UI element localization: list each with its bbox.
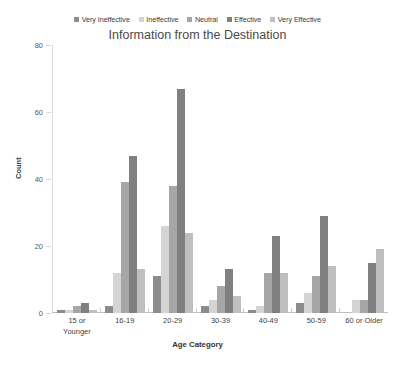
bar[interactable] <box>360 300 368 313</box>
bar[interactable] <box>233 296 241 313</box>
legend-swatch-icon <box>270 17 275 22</box>
bar[interactable] <box>225 269 233 313</box>
legend-label: Ineffective <box>146 15 178 24</box>
x-axis-labels: 15 orYounger16-1920-2930-3940-4950-5960 … <box>53 316 388 337</box>
bar[interactable] <box>272 236 280 313</box>
bar-group <box>197 45 245 313</box>
legend-label: Very Ineffective <box>82 15 130 24</box>
y-tick-mark <box>46 179 51 180</box>
y-tick-label: 20 <box>35 242 43 251</box>
bar[interactable] <box>89 310 97 313</box>
bar[interactable] <box>328 266 336 313</box>
bar[interactable] <box>376 249 384 313</box>
legend-swatch-icon <box>139 17 144 22</box>
bar[interactable] <box>153 276 161 313</box>
legend-swatch-icon <box>227 17 232 22</box>
x-tick-label: 20-29 <box>149 316 197 337</box>
y-tick-label: 80 <box>35 41 43 50</box>
x-tick-label: 60 or Older <box>340 316 388 337</box>
x-tick-label: 30-39 <box>197 316 245 337</box>
bar[interactable] <box>161 226 169 313</box>
y-axis-title: Count <box>14 157 23 179</box>
legend-label: Neutral <box>195 15 218 24</box>
bar-group <box>101 45 149 313</box>
bar[interactable] <box>280 273 288 313</box>
y-tick-mark <box>46 246 51 247</box>
chart-title: Information from the Destination <box>0 28 395 42</box>
legend-entry-ineffective[interactable]: Ineffective <box>139 15 179 24</box>
bar[interactable] <box>121 182 129 313</box>
legend-entry-effective[interactable]: Effective <box>227 15 261 24</box>
y-tick-mark <box>46 313 51 314</box>
y-tick-label: 40 <box>35 175 43 184</box>
bar[interactable] <box>256 306 264 313</box>
legend-entry-very-effective[interactable]: Very Effective <box>270 15 321 24</box>
bar[interactable] <box>185 233 193 313</box>
bar[interactable] <box>81 303 89 313</box>
bar[interactable] <box>129 156 137 313</box>
bar[interactable] <box>105 306 113 313</box>
x-tick-label: 15 orYounger <box>53 316 101 337</box>
bar[interactable] <box>320 216 328 313</box>
bar-group <box>292 45 340 313</box>
chart-legend: Very IneffectiveIneffectiveNeutralEffect… <box>0 15 395 24</box>
legend-entry-very-ineffective[interactable]: Very Ineffective <box>74 15 130 24</box>
bar[interactable] <box>296 303 304 313</box>
x-tick-label: 40-49 <box>244 316 292 337</box>
x-tick-label: 50-59 <box>292 316 340 337</box>
bar[interactable] <box>352 300 360 313</box>
bar-chart: Very IneffectiveIneffectiveNeutralEffect… <box>0 0 395 367</box>
legend-swatch-icon <box>74 17 79 22</box>
bar[interactable] <box>169 186 177 313</box>
bar-groups <box>53 45 388 313</box>
bar-group <box>340 45 388 313</box>
bar-group <box>53 45 101 313</box>
bar[interactable] <box>65 310 73 313</box>
bar[interactable] <box>368 263 376 313</box>
bar[interactable] <box>264 273 272 313</box>
bar[interactable] <box>312 276 320 313</box>
legend-label: Very Effective <box>278 15 321 24</box>
bar-group <box>149 45 197 313</box>
legend-label: Effective <box>234 15 261 24</box>
plot-area: 020406080 <box>52 45 388 313</box>
bar[interactable] <box>137 269 145 313</box>
legend-entry-neutral[interactable]: Neutral <box>187 15 217 24</box>
bar[interactable] <box>177 89 185 313</box>
bar[interactable] <box>201 306 209 313</box>
bar[interactable] <box>304 293 312 313</box>
bar[interactable] <box>73 306 81 313</box>
y-tick-mark <box>46 112 51 113</box>
x-tick-label: 16-19 <box>101 316 149 337</box>
bar[interactable] <box>113 273 121 313</box>
y-tick-label: 60 <box>35 108 43 117</box>
bar-group <box>244 45 292 313</box>
bar[interactable] <box>248 310 256 313</box>
y-tick-label: 0 <box>39 309 43 318</box>
x-axis-title: Age Category <box>0 340 395 349</box>
bar[interactable] <box>209 300 217 313</box>
y-tick-mark <box>46 45 51 46</box>
bar[interactable] <box>217 286 225 313</box>
legend-swatch-icon <box>187 17 192 22</box>
bar[interactable] <box>57 310 65 313</box>
